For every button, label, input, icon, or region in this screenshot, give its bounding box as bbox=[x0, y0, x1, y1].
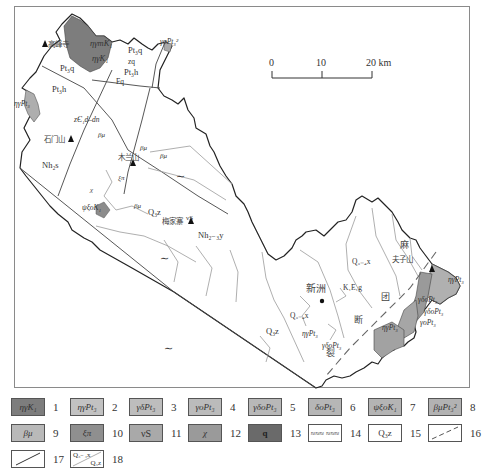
peak-markers bbox=[42, 40, 435, 272]
legend-swatch: ηγPt₃ bbox=[70, 398, 104, 416]
legend-number: 16 bbox=[470, 427, 481, 439]
fault-label-char: 团 bbox=[381, 292, 390, 302]
legend-item-17: 17 bbox=[11, 448, 64, 470]
legend-swatch: ξπ bbox=[70, 424, 104, 442]
legend-number: 15 bbox=[410, 427, 421, 439]
legend-number: 17 bbox=[53, 453, 64, 465]
legend-item-6: δoPt₃ 6 bbox=[308, 396, 356, 418]
unit-label: βμ bbox=[159, 152, 167, 160]
legend-item-7: ψξoK₁ 7 bbox=[368, 396, 416, 418]
legend-item-4: γoPt₃ 4 bbox=[188, 396, 236, 418]
legend-swatch: δoPt₃ bbox=[308, 398, 342, 416]
legend-item-5: γδoPt₃ 5 bbox=[248, 396, 296, 418]
legend-number: 12 bbox=[230, 427, 241, 439]
unit-label: ηγK₁ bbox=[92, 53, 108, 63]
legend-item-15: Q₃z 15 bbox=[368, 422, 421, 444]
legend-item-8: βμPt₃² 8 bbox=[428, 396, 476, 418]
legend-number: 9 bbox=[53, 427, 59, 439]
legend-swatch: χ bbox=[188, 424, 222, 442]
solid-line-icon bbox=[12, 451, 44, 467]
legend-item-3: γδPt₃ 3 bbox=[129, 396, 177, 418]
legend-swatch: βμ bbox=[11, 424, 45, 442]
legend-item-1: ηγK₁ 1 bbox=[11, 396, 59, 418]
place-label: 木兰山 bbox=[118, 152, 139, 162]
scale-tick-20: 20 km bbox=[366, 57, 392, 68]
legend-swatch: γoPt₃ bbox=[188, 398, 222, 416]
legend-number: 2 bbox=[112, 401, 118, 413]
unit-label: γδoPt₃ bbox=[322, 341, 342, 350]
legend-swatch: γδoPt₃ bbox=[248, 398, 282, 416]
legend-item-14: ≈≈≈ ≈≈≈ 14 bbox=[308, 422, 361, 444]
unit-label: Q₃₋₄x bbox=[290, 311, 309, 320]
unit-label: Q₃z bbox=[266, 326, 279, 336]
legend-number: 1 bbox=[53, 401, 59, 413]
fault-label-char: 断 bbox=[354, 314, 363, 325]
city-marker-icon bbox=[320, 299, 324, 303]
wavy-symbols: ∼ ∼ ∼ bbox=[160, 170, 185, 354]
unit-label: Nh₂₋₃y bbox=[198, 230, 224, 240]
svg-text:∼: ∼ bbox=[160, 252, 169, 264]
place-label: 夫子山 bbox=[392, 254, 413, 264]
legend-swatch: νS bbox=[129, 424, 163, 442]
unit-label: Q₃₋₄x bbox=[352, 257, 371, 266]
legend-item-2: ηγPt₃ 2 bbox=[70, 396, 118, 418]
legend-number: 7 bbox=[410, 401, 416, 413]
unit-label: ξπ bbox=[118, 174, 125, 182]
dashed-line-icon bbox=[429, 425, 461, 441]
unit-label: ηγPt₃ bbox=[448, 275, 464, 284]
legend-swatch-migmatite: ≈≈≈ ≈≈≈ bbox=[308, 424, 342, 442]
legend-swatch: q bbox=[248, 424, 282, 442]
svg-text:∼: ∼ bbox=[176, 170, 185, 182]
unit-label: βμ bbox=[97, 131, 105, 139]
legend-number: 14 bbox=[350, 427, 361, 439]
legend-number: 3 bbox=[171, 401, 177, 413]
place-label: 高峰寺 bbox=[48, 39, 70, 49]
unit-label: zq bbox=[128, 57, 135, 66]
unit-label: ηγmK₁ bbox=[90, 38, 112, 48]
legend-item-9: βμ 9 bbox=[11, 422, 59, 444]
legend-item-18: Q₃₋₄x Q₃z 18 bbox=[70, 448, 123, 470]
legend-swatch: ψξoK₁ bbox=[368, 398, 402, 416]
unit-label: χ bbox=[89, 186, 94, 194]
contact-label-top: Q₃₋₄x bbox=[73, 451, 90, 459]
legend-number: 11 bbox=[171, 427, 182, 439]
scale-bar: 0 10 20 km bbox=[269, 57, 392, 78]
legend-number: 18 bbox=[112, 453, 123, 465]
unit-label: ψξoK₁ bbox=[82, 203, 102, 212]
legend-item-16: 16 bbox=[428, 422, 481, 444]
legend-swatch-fault bbox=[11, 450, 45, 468]
legend-swatch: ηγK₁ bbox=[11, 398, 45, 416]
unit-label: γδoPt₃ bbox=[418, 295, 438, 304]
unit-label: K₁E₁g bbox=[343, 283, 362, 292]
unit-label: Pt₃q bbox=[128, 45, 143, 55]
unit-label: Pt₃h bbox=[52, 84, 67, 94]
unit-label: γoPt₃ bbox=[420, 318, 436, 327]
unit-label: νS bbox=[186, 214, 193, 222]
place-label: 梅家寨 bbox=[162, 216, 184, 226]
legend-item-10: ξπ 10 bbox=[70, 422, 123, 444]
unit-label: γoPt₃² bbox=[160, 37, 179, 46]
legend-number: 13 bbox=[290, 427, 301, 439]
legend-item-13: q 13 bbox=[248, 422, 301, 444]
legend-number: 6 bbox=[350, 401, 356, 413]
geologic-contacts bbox=[96, 146, 422, 362]
unit-label: γδoPt₃ bbox=[424, 307, 444, 316]
unit-label: Fq bbox=[116, 77, 124, 86]
peak-icon bbox=[68, 135, 74, 142]
unit-label: Pt₃h bbox=[124, 67, 139, 77]
legend-number: 5 bbox=[290, 401, 296, 413]
unit-label: zЄ₁d–dn bbox=[73, 115, 100, 124]
unit-label: Q₃z bbox=[148, 207, 161, 217]
unit-label: ηγPt₃ bbox=[382, 323, 398, 332]
legend-swatch-contact: Q₃₋₄x Q₃z bbox=[70, 450, 104, 468]
legend-number: 10 bbox=[112, 427, 123, 439]
unit-label: Pt₃q bbox=[60, 63, 75, 73]
unit-label: βμ bbox=[139, 144, 147, 152]
unit-label: βμ bbox=[133, 202, 141, 210]
legend-item-12: χ 12 bbox=[188, 422, 241, 444]
legend-number: 8 bbox=[470, 401, 476, 413]
place-label: 石门山 bbox=[44, 134, 65, 144]
contact-label-bottom: Q₃z bbox=[90, 459, 101, 467]
legend-number: 4 bbox=[230, 401, 236, 413]
unit-label: ηγPt₃ bbox=[14, 99, 30, 108]
